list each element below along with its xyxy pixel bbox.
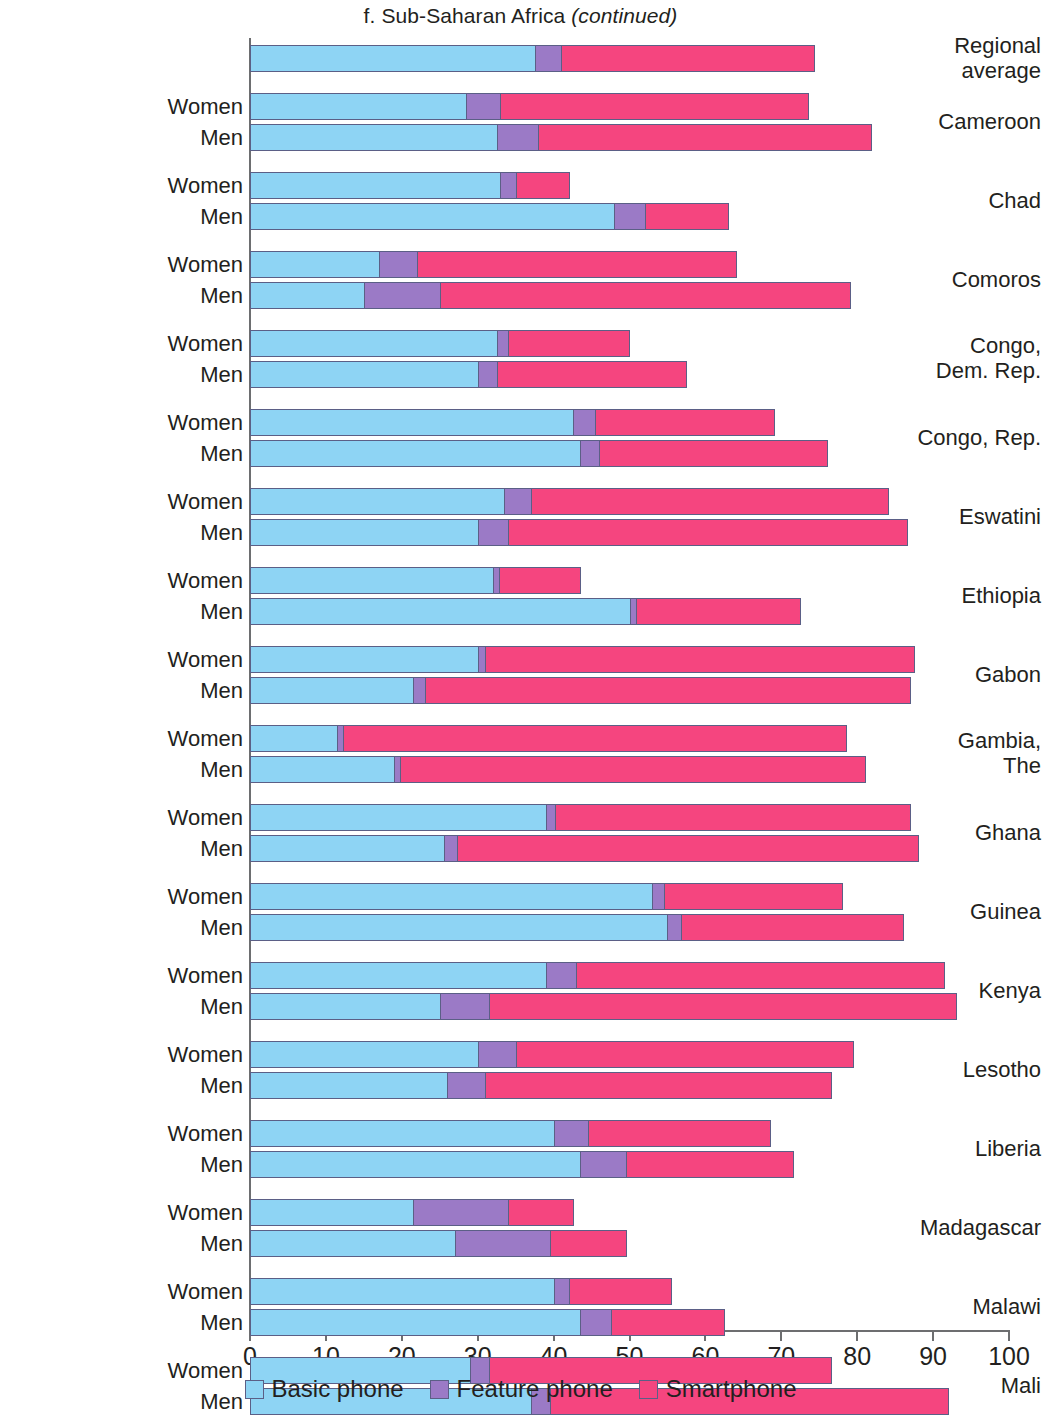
bar-segment-smart: [550, 1230, 627, 1257]
bar-row: [0, 361, 1041, 388]
bar-row: [0, 93, 1041, 120]
bar-row: [0, 804, 1041, 831]
bar-segment-smart: [485, 1072, 831, 1099]
bar-row: [0, 883, 1041, 910]
legend-swatch-feature: [430, 1380, 449, 1399]
bar-row: [0, 567, 1041, 594]
bar-row: [0, 519, 1041, 546]
bar-segment-basic: [250, 646, 479, 673]
bar-segment-feature: [580, 1309, 611, 1336]
bar-segment-basic: [250, 409, 574, 436]
bar-segment-basic: [250, 124, 498, 151]
bar-segment-basic: [250, 1309, 581, 1336]
bar-row: [0, 1151, 1041, 1178]
bar-segment-basic: [250, 1072, 448, 1099]
bar-segment-feature: [478, 361, 498, 388]
bar-segment-smart: [599, 440, 828, 467]
bar-segment-smart: [417, 251, 737, 278]
bar-segment-basic: [250, 440, 581, 467]
bar-row: [0, 914, 1041, 941]
bar-segment-smart: [497, 361, 688, 388]
bar-segment-feature: [546, 962, 577, 989]
bar-segment-feature: [535, 45, 563, 72]
bar-row: [0, 1230, 1041, 1257]
bar-segment-feature: [497, 124, 540, 151]
bar-segment-smart: [569, 1278, 672, 1305]
bar-segment-smart: [636, 598, 802, 625]
bar-segment-basic: [250, 488, 505, 515]
bar-segment-feature: [478, 519, 509, 546]
bar-segment-feature: [667, 914, 682, 941]
bar-segment-smart: [400, 756, 866, 783]
bar-segment-feature: [444, 835, 459, 862]
bar-segment-smart: [588, 1120, 771, 1147]
bar-row: [0, 962, 1041, 989]
bar-segment-smart: [485, 646, 915, 673]
bar-segment-feature: [455, 1230, 551, 1257]
bar-segment-basic: [250, 1199, 414, 1226]
bar-segment-basic: [250, 677, 414, 704]
bar-segment-basic: [250, 45, 536, 72]
bar-segment-smart: [681, 914, 904, 941]
bar-segment-basic: [250, 1041, 479, 1068]
legend-swatch-basic: [245, 1380, 264, 1399]
bar-segment-basic: [250, 251, 380, 278]
bar-segment-basic: [250, 330, 498, 357]
bar-segment-basic: [250, 172, 501, 199]
bar-row: [0, 1072, 1041, 1099]
bar-segment-feature: [554, 1120, 589, 1147]
bar-segment-basic: [250, 567, 494, 594]
bar-segment-basic: [250, 1120, 555, 1147]
legend-item-basic[interactable]: Basic phone: [245, 1375, 404, 1403]
legend-item-feature[interactable]: Feature phone: [430, 1375, 613, 1403]
bar-row: [0, 1278, 1041, 1305]
bar-segment-smart: [595, 409, 774, 436]
chart-title-prefix: f. Sub-Saharan Africa: [364, 4, 572, 27]
bar-segment-basic: [250, 282, 365, 309]
chart-title: f. Sub-Saharan Africa (continued): [0, 4, 1041, 28]
bar-row: [0, 1120, 1041, 1147]
bar-segment-basic: [250, 1278, 555, 1305]
bar-segment-basic: [250, 93, 467, 120]
bar-segment-feature: [614, 203, 645, 230]
bar-segment-feature: [478, 1041, 517, 1068]
bar-row: [0, 172, 1041, 199]
bar-segment-smart: [499, 567, 581, 594]
bar-segment-basic: [250, 598, 631, 625]
bar-segment-basic: [250, 203, 615, 230]
bar-segment-basic: [250, 725, 338, 752]
bar-row: [0, 1041, 1041, 1068]
bar-segment-feature: [554, 1278, 570, 1305]
bar-row: [0, 835, 1041, 862]
bar-row: [0, 282, 1041, 309]
bar-row: [0, 1309, 1041, 1336]
bar-row: [0, 203, 1041, 230]
bar-segment-feature: [500, 172, 516, 199]
bar-segment-basic: [250, 519, 479, 546]
bar-row: [0, 725, 1041, 752]
bar-row: [0, 1199, 1041, 1226]
bar-row: [0, 45, 1041, 72]
bar-segment-feature: [413, 1199, 509, 1226]
bar-segment-smart: [343, 725, 846, 752]
bar-segment-smart: [425, 677, 912, 704]
bar-row: [0, 598, 1041, 625]
bar-segment-feature: [504, 488, 532, 515]
bar-segment-basic: [250, 835, 445, 862]
bar-segment-smart: [531, 488, 889, 515]
bar-row: [0, 124, 1041, 151]
bar-segment-basic: [250, 1230, 456, 1257]
bar-segment-smart: [508, 330, 630, 357]
bar-segment-smart: [489, 993, 957, 1020]
bar-segment-feature: [580, 440, 600, 467]
bar-segment-basic: [250, 1151, 581, 1178]
bar-segment-basic: [250, 883, 653, 910]
bar-segment-smart: [626, 1151, 794, 1178]
bar-segment-feature: [447, 1072, 486, 1099]
bar-segment-smart: [611, 1309, 726, 1336]
bar-segment-smart: [664, 883, 843, 910]
bar-row: [0, 756, 1041, 783]
legend-item-smart[interactable]: Smartphone: [639, 1375, 797, 1403]
bar-row: [0, 993, 1041, 1020]
